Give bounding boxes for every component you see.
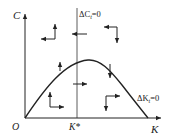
arrow-pair-lower-right xyxy=(106,96,120,111)
phase-diagram: C K O K* ΔCt=0 ΔKt=0 xyxy=(0,0,169,138)
arrow-pair-lower-left xyxy=(50,92,64,107)
arrow-pair-upper-left xyxy=(41,24,55,39)
delta-k-label: ΔKt=0 xyxy=(137,93,159,104)
k-star-label: K* xyxy=(68,122,80,132)
y-axis-label: C xyxy=(13,9,21,21)
origin-label: O xyxy=(12,121,19,132)
delta-k-zero-locus xyxy=(25,60,148,118)
arrow-pair-upper-right xyxy=(104,27,117,43)
delta-c-label: ΔCt=0 xyxy=(79,9,101,20)
x-axis-label: K xyxy=(150,123,159,135)
